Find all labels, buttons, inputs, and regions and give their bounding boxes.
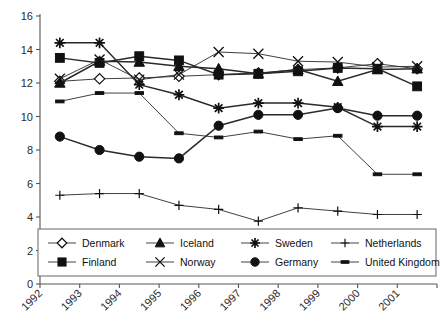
series-path [60,108,417,158]
marker-asterisk [253,98,264,109]
x-tick-label: 1997 [217,287,243,313]
line-chart: 0246810121416 19921993199419951996199719… [0,0,441,332]
x-tick-label: 1999 [297,287,323,313]
y-tick-label: 4 [27,211,33,223]
legend-label: United Kingdom [365,256,440,268]
marker-plus [95,189,104,198]
marker-asterisk [94,37,105,48]
marker-circle-filled [135,152,144,161]
x-tick-label: 1998 [257,287,283,313]
series-layer [54,37,422,225]
x-axis: 1992199319941995199619971998199920002001 [19,284,437,313]
marker-circle-filled [254,110,263,119]
marker-circle-filled [333,104,342,113]
marker-asterisk [213,103,224,114]
y-tick-label: 12 [21,77,33,89]
marker-asterisk [250,238,260,248]
series-germany [55,104,422,163]
marker-dash [95,92,103,95]
series-sweden [54,37,422,132]
marker-square-filled [58,258,66,266]
marker-asterisk [134,79,145,90]
marker-circle-filled [251,258,259,266]
series-path [60,61,417,83]
x-tick-label: 1992 [19,287,45,313]
series-united-kingdom [56,92,422,176]
marker-square-filled [413,82,422,91]
marker-dash [56,100,64,103]
y-axis: 0246810121416 [21,10,40,290]
marker-plus [333,207,342,216]
marker-plus [214,205,223,214]
chart-legend: DenmarkIcelandSwedenNetherlandsFinlandNo… [38,229,440,276]
marker-plus [413,210,422,219]
y-tick-label: 10 [21,111,33,123]
y-tick-label: 0 [27,278,33,290]
marker-dash [214,136,222,139]
legend-label: Iceland [180,237,214,249]
marker-asterisk [293,98,304,109]
y-tick-label: 14 [21,44,33,56]
marker-dash [254,130,262,133]
x-tick-label: 2001 [376,287,402,313]
x-tick-label: 1993 [58,287,84,313]
marker-plus [293,203,302,212]
legend-label: Norway [180,256,216,268]
marker-dash [294,138,302,141]
marker-circle-filled [95,145,104,154]
legend-label: Finland [82,256,117,268]
legend-label: Germany [275,256,319,268]
x-tick-label: 1995 [138,287,164,313]
legend-item-finland[interactable]: Finland [48,256,117,268]
marker-dash [413,173,421,176]
y-tick-label: 6 [27,178,33,190]
marker-diamond-open [94,74,104,84]
chart-canvas: 0246810121416 19921993199419951996199719… [0,0,441,332]
marker-asterisk [54,37,65,48]
marker-dash [135,92,143,95]
marker-circle-filled [214,121,223,130]
series-netherlands [55,189,422,226]
marker-circle-filled [413,111,422,120]
marker-asterisk [174,89,185,100]
legend-item-netherlands[interactable]: Netherlands [331,237,422,249]
marker-circle-filled [55,132,64,141]
legend-label: Netherlands [365,237,422,249]
marker-circle-filled [293,110,302,119]
legend-label: Sweden [275,237,313,249]
marker-plus [373,210,382,219]
marker-plus [55,191,64,200]
series-path [60,52,417,80]
marker-square-filled [55,53,64,62]
marker-asterisk [372,121,383,132]
series-path [60,43,417,127]
y-tick-label: 16 [21,10,33,22]
marker-dash [373,173,381,176]
marker-dash [334,134,342,137]
marker-plus [174,201,183,210]
x-tick-label: 1994 [98,287,124,313]
marker-circle-filled [174,154,183,163]
x-tick-label: 2000 [336,287,362,313]
x-tick-label: 1996 [177,287,203,313]
series-path [60,194,417,222]
marker-plus [135,189,144,198]
marker-asterisk [412,121,423,132]
marker-dash [175,132,183,135]
marker-dash [341,261,349,264]
y-tick-label: 8 [27,144,33,156]
marker-plus [254,217,263,226]
legend-item-norway[interactable]: Norway [146,256,216,268]
legend-label: Denmark [82,237,125,249]
y-tick-label: 2 [27,245,33,257]
marker-circle-filled [373,111,382,120]
